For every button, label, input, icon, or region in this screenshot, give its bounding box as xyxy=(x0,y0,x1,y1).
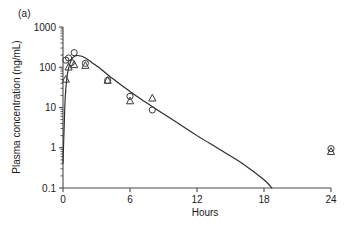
figure-panel: (a) 0.11101001000 06121824 Hours Plasma … xyxy=(0,0,351,235)
y-tick-label: 0.1 xyxy=(42,183,56,194)
data-point-triangle xyxy=(149,94,156,101)
y-tick-label: 10 xyxy=(45,102,57,113)
x-tick-label: 18 xyxy=(258,194,270,205)
x-tick-label: 24 xyxy=(325,194,337,205)
y-axis-title: Plasma concentration (ng/mL) xyxy=(11,40,22,173)
x-tick-label: 0 xyxy=(60,194,66,205)
plasma-concentration-chart: 0.11101001000 06121824 Hours Plasma conc… xyxy=(0,0,351,235)
x-tick-label: 6 xyxy=(127,194,133,205)
y-axis-tick-labels: 0.11101001000 xyxy=(34,22,57,194)
data-point-circle xyxy=(149,107,155,113)
data-point-triangle xyxy=(104,77,111,84)
data-point-circle xyxy=(71,50,77,56)
y-tick-label: 1000 xyxy=(34,22,57,33)
triangle-data-markers xyxy=(62,61,334,155)
y-tick-label: 100 xyxy=(39,62,56,73)
x-axis-title: Hours xyxy=(192,207,219,218)
x-tick-label: 12 xyxy=(191,194,203,205)
y-tick-label: 1 xyxy=(50,142,56,153)
x-axis-major-ticks xyxy=(63,188,331,192)
panel-label: (a) xyxy=(18,8,31,19)
x-axis-tick-labels: 06121824 xyxy=(60,194,337,205)
fitted-curve xyxy=(63,55,272,188)
